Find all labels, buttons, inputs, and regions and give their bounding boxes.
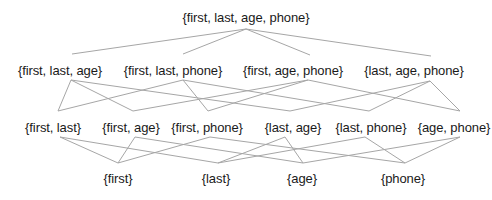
edge-lap-lp bbox=[369, 81, 430, 111]
node-a: {age} bbox=[287, 171, 317, 187]
edge-fl-l bbox=[60, 137, 218, 163]
node-fl: {first, last} bbox=[25, 120, 81, 136]
node-flp: {first, last, phone} bbox=[124, 63, 222, 79]
edges-layer bbox=[0, 0, 492, 200]
node-la: {last, age} bbox=[265, 120, 322, 136]
edge-flap-fap bbox=[246, 29, 310, 55]
edge-fa-a bbox=[135, 137, 303, 163]
node-flap: {first, last, age, phone} bbox=[183, 10, 310, 26]
edge-ap-a bbox=[303, 137, 460, 163]
node-fla: {first, last, age} bbox=[18, 63, 102, 79]
node-fp: {first, phone} bbox=[171, 120, 243, 136]
node-p: {phone} bbox=[381, 171, 425, 187]
edge-flap-lap bbox=[246, 29, 431, 56]
edge-fap-ap bbox=[308, 80, 460, 111]
node-f: {first} bbox=[104, 171, 133, 187]
edge-fl-f bbox=[60, 137, 118, 163]
edge-lap-la bbox=[290, 81, 430, 111]
edge-flap-fla bbox=[72, 29, 246, 54]
edge-lap-ap bbox=[430, 81, 460, 111]
edge-flp-fl bbox=[58, 80, 183, 111]
node-ap: {age, phone} bbox=[418, 120, 491, 136]
edge-lp-p bbox=[365, 137, 405, 163]
edge-flp-fp bbox=[183, 80, 208, 111]
hasse-diagram: {first, last, age, phone}{first, last, a… bbox=[0, 0, 492, 200]
edge-fla-fl bbox=[58, 80, 71, 111]
node-lp: {last, phone} bbox=[336, 120, 407, 136]
edge-fap-fa bbox=[133, 80, 308, 111]
node-lap: {last, age, phone} bbox=[364, 63, 463, 79]
edge-flp-lp bbox=[183, 80, 369, 111]
edge-ap-p bbox=[405, 137, 460, 163]
node-fa: {first, age} bbox=[102, 120, 159, 136]
edge-flap-flp bbox=[183, 29, 246, 54]
node-fap: {first, age, phone} bbox=[243, 63, 343, 79]
node-l: {last} bbox=[202, 171, 230, 187]
